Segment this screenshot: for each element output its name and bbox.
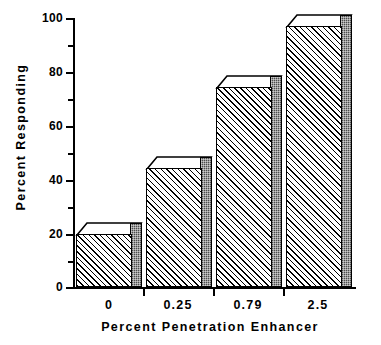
- x-tick-label-25: 2.5: [288, 298, 348, 312]
- y-tick-60: [66, 126, 74, 128]
- y-tick-label-40: 40: [23, 173, 63, 187]
- y-tick-0: [66, 287, 74, 289]
- bar-chart-figure: Percent Responding 100 80 60 40 20 0 0 0…: [0, 0, 381, 345]
- bar-2-front-face: [216, 87, 272, 287]
- x-tick-label-0: 0: [79, 298, 139, 312]
- x-tick-label-079: 0.79: [218, 298, 278, 312]
- y-minor-tick-70: [68, 99, 74, 101]
- y-minor-tick-10: [68, 261, 74, 263]
- x-axis-title: Percent Penetration Enhancer: [60, 320, 360, 334]
- bar-2: [216, 0, 286, 289]
- x-tick-2: [213, 289, 215, 296]
- y-tick-80: [66, 72, 74, 74]
- bar-3-front-face: [286, 26, 342, 287]
- x-tick-1: [143, 289, 145, 296]
- y-tick-100: [66, 18, 74, 20]
- y-tick-label-100: 100: [23, 11, 63, 25]
- y-tick-label-20: 20: [23, 227, 63, 241]
- x-tick-3: [283, 289, 285, 296]
- y-axis-title: Percent Responding: [14, 32, 28, 242]
- bar-0-front-face: [76, 234, 132, 287]
- bar-0: [76, 0, 146, 289]
- bar-3: [286, 0, 356, 289]
- y-minor-tick-50: [68, 153, 74, 155]
- y-tick-40: [66, 180, 74, 182]
- y-tick-20: [66, 234, 74, 236]
- y-tick-label-80: 80: [23, 65, 63, 79]
- y-tick-label-60: 60: [23, 119, 63, 133]
- bar-1-front-face: [146, 168, 202, 287]
- y-minor-tick-90: [68, 45, 74, 47]
- bar-1: [146, 0, 216, 289]
- y-minor-tick-30: [68, 207, 74, 209]
- x-tick-label-025: 0.25: [148, 298, 208, 312]
- y-tick-label-0: 0: [23, 280, 63, 294]
